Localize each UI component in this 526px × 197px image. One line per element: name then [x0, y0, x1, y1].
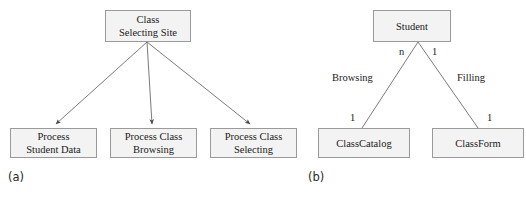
node-label-line-1: Student	[396, 20, 428, 33]
node-label-line-1: Process Class	[225, 130, 282, 143]
figure-canvas: Class Selecting Site Process Student Dat…	[0, 0, 526, 197]
line-student-to-classform	[418, 42, 478, 128]
arrow-to-process-class-selecting	[147, 42, 250, 124]
arrow-to-process-class-browsing	[147, 42, 152, 124]
relationship-label-filling: Filling	[457, 72, 485, 83]
node-class-selecting-site[interactable]: Class Selecting Site	[105, 10, 191, 42]
node-label-line-2: Student Data	[26, 143, 81, 156]
node-classcatalog[interactable]: ClassCatalog	[318, 128, 410, 158]
cardinality-browsing-bottom: 1	[350, 112, 355, 123]
node-label-line-1: ClassCatalog	[336, 137, 391, 150]
panel-caption-b: (b)	[308, 170, 324, 184]
node-label-line-1: Class	[137, 13, 160, 26]
line-student-to-classcatalog	[362, 42, 418, 128]
node-label-line-2: Browsing	[133, 143, 174, 156]
relationship-label-browsing: Browsing	[332, 72, 373, 83]
panel-caption-a: (a)	[8, 170, 24, 184]
node-student[interactable]: Student	[373, 10, 451, 42]
node-classform[interactable]: ClassForm	[432, 128, 524, 158]
node-label-line-1: Process	[37, 130, 69, 143]
cardinality-filling-bottom: 1	[487, 112, 492, 123]
node-process-class-selecting[interactable]: Process Class Selecting	[210, 128, 297, 158]
node-label-line-1: Process Class	[125, 130, 182, 143]
node-label-line-1: ClassForm	[455, 137, 501, 150]
arrow-to-process-student-data	[56, 42, 147, 124]
node-label-line-2: Selecting	[234, 143, 273, 156]
node-label-line-2: Selecting Site	[119, 26, 177, 39]
node-process-class-browsing[interactable]: Process Class Browsing	[110, 128, 197, 158]
cardinality-browsing-top: n	[399, 46, 404, 57]
node-process-student-data[interactable]: Process Student Data	[10, 128, 97, 158]
cardinality-filling-top: 1	[432, 46, 437, 57]
